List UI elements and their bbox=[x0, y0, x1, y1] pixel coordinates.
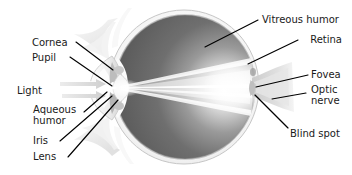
ciliary-body-upper bbox=[114, 66, 124, 74]
label-lens: Lens bbox=[33, 151, 56, 162]
eye-anatomy-diagram: Cornea Pupil Light Aqueous humor Iris Le… bbox=[0, 0, 352, 175]
label-blind-spot: Blind spot bbox=[290, 128, 340, 139]
label-fovea: Fovea bbox=[311, 69, 341, 80]
label-light: Light bbox=[17, 85, 42, 96]
label-pupil: Pupil bbox=[32, 52, 56, 63]
label-optic-nerve: Optic nerve bbox=[311, 85, 340, 106]
label-cornea: Cornea bbox=[32, 37, 68, 48]
label-iris: Iris bbox=[33, 135, 48, 146]
leader-retina bbox=[248, 40, 298, 64]
label-aqueous-humor-line2: humor bbox=[33, 116, 76, 127]
label-aqueous-humor: Aqueous humor bbox=[33, 105, 76, 126]
label-optic-nerve-line2: nerve bbox=[311, 96, 340, 107]
label-aqueous-humor-line1: Aqueous bbox=[33, 105, 76, 116]
fovea-shape bbox=[250, 68, 256, 76]
label-optic-nerve-line1: Optic bbox=[311, 85, 340, 96]
eye-illustration bbox=[0, 0, 352, 175]
optic-disc bbox=[249, 81, 255, 95]
label-retina: Retina bbox=[310, 34, 342, 45]
label-vitreous-humor: Vitreous humor bbox=[262, 14, 339, 25]
